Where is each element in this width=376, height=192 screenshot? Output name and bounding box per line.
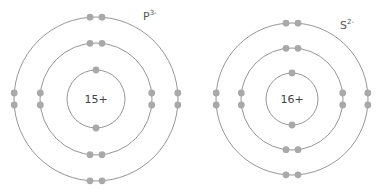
electron-icon bbox=[99, 14, 106, 21]
electron-icon bbox=[37, 102, 44, 109]
electron-icon bbox=[295, 20, 302, 27]
electron-icon bbox=[238, 90, 245, 97]
electron-icon bbox=[339, 102, 346, 109]
electron-icon bbox=[174, 90, 181, 97]
ion-label-phosphide: P3- bbox=[143, 9, 157, 23]
nucleus-label-sulfur: 16+ bbox=[280, 93, 303, 106]
electron-icon bbox=[295, 45, 302, 52]
electron-icon bbox=[213, 90, 220, 97]
ion-charge: 2- bbox=[347, 18, 354, 26]
electron-icon bbox=[87, 14, 94, 21]
ion-label-sulfide: S2- bbox=[340, 18, 354, 32]
electron-icon bbox=[289, 70, 296, 77]
electron-icon bbox=[11, 90, 18, 97]
electron-icon bbox=[11, 102, 18, 109]
ion-charge: 3- bbox=[150, 9, 157, 17]
electron-icon bbox=[283, 20, 290, 27]
electron-icon bbox=[174, 102, 181, 109]
electron-icon bbox=[99, 151, 106, 158]
electron-icon bbox=[148, 102, 155, 109]
bohr-diagram: 15+ 16+ P3- S2- bbox=[0, 0, 376, 192]
electron-icon bbox=[364, 102, 371, 109]
electron-icon bbox=[283, 146, 290, 153]
electron-icon bbox=[93, 67, 100, 74]
electron-icon bbox=[99, 177, 106, 184]
electron-icon bbox=[93, 125, 100, 132]
electron-icon bbox=[87, 40, 94, 47]
electron-icon bbox=[364, 90, 371, 97]
electron-icon bbox=[37, 90, 44, 97]
ion-symbol: S bbox=[340, 19, 347, 32]
electron-icon bbox=[283, 45, 290, 52]
electron-icon bbox=[295, 146, 302, 153]
electron-icon bbox=[99, 40, 106, 47]
electron-icon bbox=[283, 171, 290, 178]
electron-icon bbox=[148, 90, 155, 97]
electron-icon bbox=[87, 151, 94, 158]
electron-icon bbox=[87, 177, 94, 184]
electron-icon bbox=[295, 171, 302, 178]
electron-icon bbox=[289, 122, 296, 129]
nucleus-label-phosphorus: 15+ bbox=[84, 93, 107, 106]
electron-icon bbox=[339, 90, 346, 97]
electron-icon bbox=[213, 102, 220, 109]
electron-icon bbox=[238, 102, 245, 109]
